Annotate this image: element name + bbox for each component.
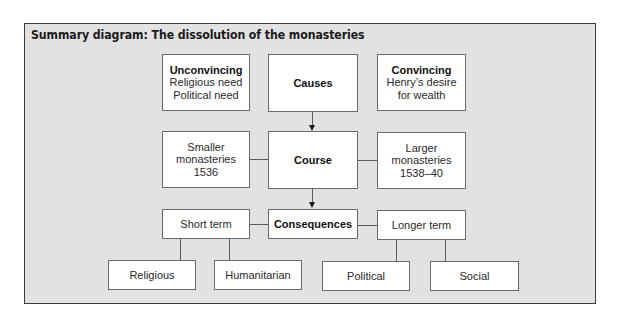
short-term-box: Short term — [162, 209, 250, 239]
social-label: Social — [460, 270, 490, 283]
connector-longer-social — [445, 240, 446, 261]
humanitarian-box: Humanitarian — [214, 260, 302, 290]
causes-label: Causes — [293, 77, 332, 90]
social-box: Social — [430, 261, 519, 291]
longer-term-label: Longer term — [392, 219, 451, 232]
connector-short-humanitarian — [229, 239, 230, 260]
unconvincing-heading: Unconvincing — [170, 64, 243, 77]
connector-course-consequences — [312, 189, 313, 203]
religious-box: Religious — [108, 260, 196, 290]
religious-label: Religious — [129, 269, 174, 282]
smaller-line-1: Smaller — [187, 141, 224, 154]
larger-line-3: 1538–40 — [400, 167, 443, 180]
course-label: Course — [294, 154, 332, 167]
larger-line-2: monasteries — [392, 154, 452, 167]
unconvincing-line-1: Religious need — [170, 76, 243, 89]
unconvincing-box: Unconvincing Religious need Political ne… — [162, 54, 250, 111]
connector-causes-course — [312, 112, 313, 126]
smaller-line-2: monasteries — [176, 153, 236, 166]
convincing-heading: Convincing — [392, 64, 452, 77]
short-term-label: Short term — [180, 218, 231, 231]
connector-consequences-longer — [358, 225, 377, 226]
convincing-line-1: Henry’s desire — [386, 76, 456, 89]
connector-short-consequences — [250, 224, 268, 225]
political-box: Political — [322, 261, 410, 291]
unconvincing-line-2: Political need — [173, 89, 238, 102]
political-label: Political — [347, 270, 385, 283]
consequences-box: Consequences — [268, 209, 358, 239]
convincing-line-2: for wealth — [398, 89, 446, 102]
larger-monasteries-box: Larger monasteries 1538–40 — [377, 132, 466, 189]
humanitarian-label: Humanitarian — [225, 269, 290, 282]
smaller-line-3: 1536 — [194, 166, 218, 179]
connector-course-larger — [358, 160, 377, 161]
smaller-monasteries-box: Smaller monasteries 1536 — [162, 131, 250, 188]
diagram-title: Summary diagram: The dissolution of the … — [31, 27, 365, 42]
connector-short-religious — [180, 239, 181, 260]
connector-smaller-course — [250, 159, 268, 160]
arrow-down-icon — [309, 202, 315, 208]
connector-longer-political — [396, 240, 397, 261]
course-box: Course — [268, 131, 358, 189]
longer-term-box: Longer term — [377, 210, 466, 240]
causes-box: Causes — [268, 54, 358, 112]
convincing-box: Convincing Henry’s desire for wealth — [377, 54, 466, 111]
consequences-label: Consequences — [274, 218, 352, 231]
larger-line-1: Larger — [406, 142, 438, 155]
